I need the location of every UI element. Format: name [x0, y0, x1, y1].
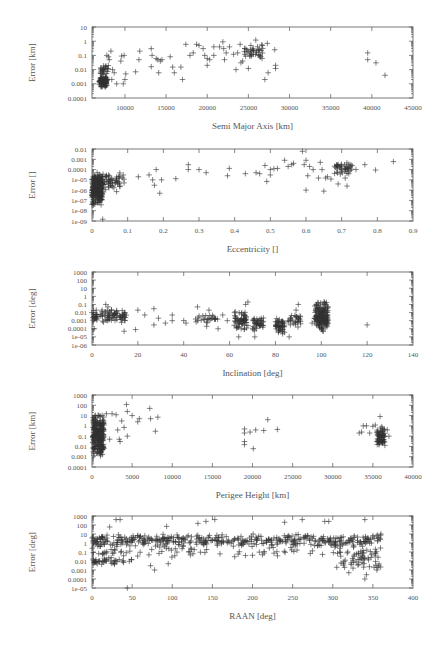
data-point-marker [360, 534, 366, 540]
y-tick-label: 1000 [73, 513, 88, 521]
y-tick-label: 0.001 [71, 80, 87, 88]
data-point-marker [365, 50, 371, 56]
x-tick-label: 0 [90, 351, 94, 359]
x-tick-label: 0.8 [373, 227, 382, 235]
data-point-marker [253, 170, 259, 176]
data-point-marker [203, 519, 209, 525]
data-point-marker [176, 535, 182, 541]
data-point-marker [198, 549, 204, 555]
data-point-marker [227, 44, 233, 50]
chart-eccentricity: 0.010.0010.00011e-051e-061e-071e-081e-09… [27, 146, 418, 255]
data-point-marker [136, 57, 142, 63]
data-point-marker [352, 533, 358, 539]
data-point-marker [113, 412, 119, 418]
data-point-marker [136, 174, 142, 180]
data-point-marker [146, 552, 152, 558]
data-point-marker [364, 547, 370, 553]
y-tick-label: 0.01 [75, 66, 88, 74]
data-point-marker [215, 543, 221, 549]
data-point-marker [185, 533, 191, 539]
data-point-marker [119, 53, 125, 59]
data-point-marker [186, 167, 192, 173]
x-tick-label: 100 [167, 594, 178, 602]
data-point-marker [386, 433, 392, 439]
data-point-marker [233, 309, 239, 315]
data-point-marker [268, 172, 274, 178]
data-point-marker [274, 549, 280, 555]
data-point-marker [176, 542, 182, 548]
data-point-marker [267, 545, 273, 551]
x-tick-label: 0.5 [266, 227, 275, 235]
x-tick-label: 60 [226, 351, 234, 359]
data-point-marker [342, 565, 348, 571]
y-tick-label: 1 [84, 38, 88, 46]
x-tick-label: 10000 [164, 473, 182, 481]
data-point-marker [253, 427, 259, 433]
data-point-marker [262, 163, 268, 169]
x-tick-label: 15000 [204, 473, 222, 481]
data-point-marker [178, 64, 184, 70]
x-tick-label: 0.2 [159, 227, 168, 235]
data-point-marker [242, 442, 248, 448]
data-point-marker [150, 177, 156, 183]
data-point-marker [260, 43, 266, 49]
data-point-marker [316, 175, 322, 181]
data-point-marker [115, 427, 121, 433]
data-point-marker [183, 320, 189, 326]
data-point-marker [215, 326, 221, 332]
data-point-marker [169, 318, 175, 324]
data-point-marker [281, 549, 287, 555]
data-point-marker [196, 167, 202, 173]
data-point-marker [373, 60, 379, 66]
data-point-marker [107, 436, 113, 442]
data-point-marker [359, 429, 365, 435]
y-axis-title: Error [km] [27, 43, 37, 82]
data-point-marker [235, 536, 241, 542]
data-point-marker [268, 167, 274, 173]
y-tick-label: 0.1 [78, 433, 87, 441]
data-point-marker [114, 81, 120, 87]
data-point-marker [308, 534, 314, 540]
x-tick-label: 0 [90, 594, 94, 602]
data-point-marker [364, 423, 370, 429]
data-point-marker [191, 547, 197, 553]
data-point-marker [204, 56, 210, 62]
data-point-marker [154, 533, 160, 539]
data-point-marker [109, 411, 115, 417]
data-point-marker [119, 418, 125, 424]
data-point-marker [195, 304, 201, 310]
data-point-marker [257, 171, 263, 177]
data-point-marker [152, 182, 158, 188]
y-tick-label: 1000 [73, 392, 88, 400]
data-point-marker [133, 69, 139, 75]
data-point-marker [121, 53, 127, 59]
data-point-marker [106, 54, 112, 60]
data-point-marker [328, 176, 334, 182]
data-point-marker [159, 57, 165, 63]
y-tick-label: 100 [77, 402, 88, 410]
data-point-marker [243, 302, 249, 308]
data-point-marker [125, 433, 131, 439]
data-point-marker [282, 519, 288, 525]
data-point-marker [308, 542, 314, 548]
x-tick-label: 5000 [125, 473, 140, 481]
data-point-marker [364, 322, 370, 328]
x-axis-title: Eccentricity [] [227, 244, 279, 254]
x-tick-label: 0 [90, 473, 94, 481]
data-point-marker [155, 414, 161, 420]
data-point-marker [233, 67, 239, 73]
plot-frame [92, 27, 413, 98]
data-point-marker [275, 166, 281, 172]
data-point-marker [345, 549, 351, 555]
data-point-marker [166, 546, 172, 552]
data-point-marker [89, 545, 95, 551]
y-tick-label: 1e-08 [71, 207, 87, 215]
data-point-marker [118, 58, 124, 64]
data-point-marker [117, 517, 123, 523]
y-axis-title: Error [deg] [27, 532, 37, 572]
y-tick-label: 100 [77, 522, 88, 530]
data-point-marker [111, 70, 117, 76]
x-tick-label: 350 [368, 594, 379, 602]
x-tick-label: 40 [180, 351, 188, 359]
data-point-marker [271, 166, 277, 172]
